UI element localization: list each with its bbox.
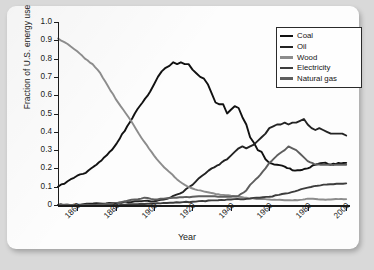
y-tick-label: 0 (26, 200, 52, 209)
y-tick-label: 0.4 (26, 127, 52, 136)
legend-item-coal: Coal (280, 31, 357, 42)
legend-item-wood: Wood (280, 52, 357, 63)
y-tick-label: 0.7 (26, 72, 52, 81)
series-line-electricity (58, 183, 346, 205)
y-tick-label: 0.6 (26, 90, 52, 99)
y-tick-label: 0.8 (26, 54, 52, 63)
legend-swatch (280, 67, 293, 69)
series-line-oil (58, 119, 346, 205)
legend-swatch (280, 56, 293, 58)
chart-figure: Fraction of U.S. energy use 00.10.20.30.… (0, 0, 374, 270)
y-tick-label: 0.1 (26, 182, 52, 191)
legend-swatch (280, 35, 293, 37)
y-tick-label: 0.3 (26, 145, 52, 154)
y-tick-label: 0.9 (26, 35, 52, 44)
legend-swatch (280, 77, 293, 79)
y-tick-label: 0.5 (26, 109, 52, 118)
y-axis-line (58, 22, 59, 205)
legend-item-oil: Oil (280, 42, 357, 53)
legend-item-natural-gas: Natural gas (280, 73, 357, 84)
y-tick-label: 0.2 (26, 163, 52, 172)
legend-swatch (280, 46, 293, 48)
screenshot-root: Fraction of U.S. energy use 00.10.20.30.… (0, 0, 374, 270)
chart-legend: CoalOilWoodElectricityNatural gas (276, 27, 362, 88)
legend-label: Electricity (297, 64, 330, 72)
legend-item-electricity: Electricity (280, 63, 357, 74)
x-axis-label: Year (0, 232, 374, 242)
legend-label: Coal (297, 32, 313, 40)
y-tick-label: 1.0 (26, 17, 52, 26)
legend-label: Wood (297, 54, 317, 62)
legend-label: Natural gas (297, 75, 337, 83)
legend-label: Oil (297, 43, 307, 51)
